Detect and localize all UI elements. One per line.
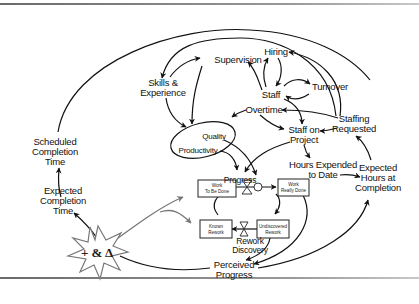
arc-hours-to-expected-hours bbox=[340, 175, 360, 177]
disturbance-label: + & Δ bbox=[81, 245, 113, 260]
var-progress: Progress bbox=[224, 175, 256, 185]
arc-overtime-to-staff-on-project bbox=[260, 115, 284, 129]
var-turnover: Turnover bbox=[312, 81, 348, 92]
stock-label: Work bbox=[212, 183, 223, 188]
stock-label: Really Done bbox=[281, 188, 306, 193]
var-expected-hours-line3: Completion bbox=[355, 182, 401, 193]
var-hours-expended-line2: to Date bbox=[308, 169, 337, 180]
causal-loop-diagram: + & Δ Work To Be Done Work Really Done K… bbox=[0, 0, 419, 304]
arc-perceived-to-disturbance bbox=[120, 256, 210, 270]
stock-label: Work bbox=[288, 182, 299, 187]
stock-label: Known bbox=[209, 224, 223, 229]
arc-turnover-to-staff bbox=[286, 94, 309, 99]
var-productivity: Productivity bbox=[179, 146, 218, 155]
arc-productivity-to-progress bbox=[220, 151, 237, 170]
arc-expected-hours-to-staffing bbox=[356, 136, 371, 160]
arc-staff-to-supervision bbox=[248, 62, 262, 90]
stock-label: To Be Done bbox=[205, 189, 229, 194]
var-overtime: Overtime bbox=[246, 104, 283, 115]
var-staffing-requested-line2: Requested bbox=[332, 123, 376, 134]
gray-arrow-to-work bbox=[114, 197, 183, 241]
var-supervision: Supervision bbox=[214, 54, 261, 65]
arc-staff-to-turnover bbox=[284, 80, 310, 86]
var-staff: Staff bbox=[262, 89, 281, 100]
var-expected-line3: Time bbox=[53, 205, 73, 216]
stock-known-rework bbox=[200, 220, 232, 238]
arc-disturbance-to-expected bbox=[74, 213, 97, 238]
arc-overtime-to-quality bbox=[232, 110, 246, 117]
arc-staff-on-project-to-progress bbox=[245, 142, 290, 172]
var-scheduled-line3: Time bbox=[45, 156, 65, 167]
stock-label: Undiscovered bbox=[259, 224, 288, 229]
var-quality: Quality bbox=[202, 132, 226, 141]
arc-staff-on-project-to-hours bbox=[304, 145, 310, 158]
stock-label: Rework bbox=[265, 230, 281, 235]
var-perceived-line2: Progress bbox=[216, 269, 253, 280]
var-hiring: Hiring bbox=[264, 46, 288, 57]
gray-arrow-to-known-rework bbox=[160, 210, 191, 223]
arc-supervision-to-quality bbox=[192, 66, 202, 124]
arc-hiring-to-staff bbox=[276, 58, 281, 86]
arc-staff-to-staff-on-project bbox=[284, 99, 302, 124]
var-rework-discovery-line2: Discovery bbox=[232, 245, 268, 255]
arc-skills-to-quality bbox=[166, 98, 186, 127]
var-staff-on-project-line2: Project bbox=[290, 134, 319, 145]
var-skills-line2: Experience bbox=[140, 87, 186, 98]
arc-staff-to-hiring bbox=[264, 58, 268, 87]
stock-label: Rework bbox=[208, 230, 224, 235]
arc-done-to-undiscovered bbox=[275, 194, 280, 214]
arc-staffing-to-overtime bbox=[282, 110, 338, 118]
arc-skills-to-supervision bbox=[170, 58, 200, 77]
